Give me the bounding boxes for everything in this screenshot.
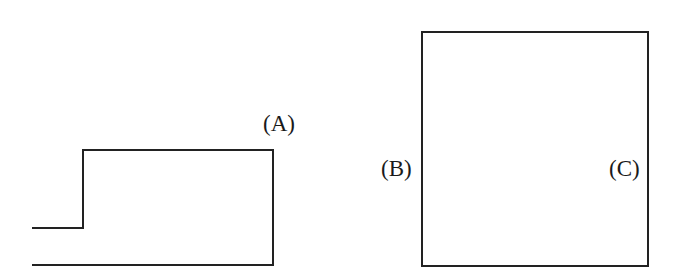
figure-label-a: (A)	[263, 112, 295, 135]
figure-label-c: (C)	[609, 157, 640, 180]
figure-canvas: (A) (B) (C)	[0, 0, 675, 279]
step-profile-outline	[33, 150, 273, 265]
figure-drawing	[0, 0, 675, 279]
figure-label-b: (B)	[381, 157, 412, 180]
square-outline	[422, 32, 648, 266]
